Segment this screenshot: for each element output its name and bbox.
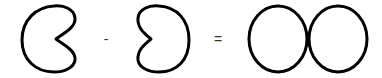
shape-equation-diagram: - =: [0, 0, 382, 78]
minus-operator: -: [104, 31, 109, 47]
kidney-shape-right: [138, 6, 189, 72]
double-ellipse-result: [249, 6, 367, 72]
ellipse-left: [249, 6, 307, 72]
ellipse-right: [309, 6, 367, 72]
kidney-shape-left: [22, 6, 75, 72]
equals-operator: =: [214, 31, 222, 47]
